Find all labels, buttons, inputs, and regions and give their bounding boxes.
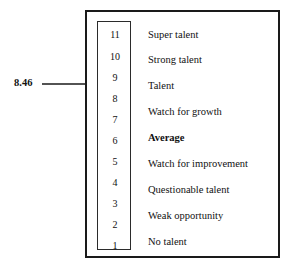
level-label-questionable-talent: Questionable talent (148, 184, 229, 195)
pointer-value-label: 8.46 (14, 77, 32, 88)
scale-number: 2 (98, 220, 132, 230)
diagram-canvas: 8.46 11 10 9 8 7 6 5 4 3 2 1 Super talen… (0, 0, 292, 271)
scale-number: 9 (98, 73, 132, 83)
level-label-average: Average (148, 132, 185, 143)
level-label-watch-for-improvement: Watch for improvement (148, 158, 248, 169)
level-label-no-talent: No talent (148, 236, 187, 247)
level-label-talent: Talent (148, 80, 174, 91)
scale-column: 11 10 9 8 7 6 5 4 3 2 1 (97, 21, 131, 250)
scale-number: 1 (98, 241, 132, 251)
scale-number: 3 (98, 199, 132, 209)
scale-number: 11 (98, 30, 132, 40)
level-label-strong-talent: Strong talent (148, 54, 202, 65)
level-label-watch-for-growth: Watch for growth (148, 106, 222, 117)
scale-number: 8 (98, 94, 132, 104)
scale-number: 6 (98, 136, 132, 146)
scale-number: 5 (98, 157, 132, 167)
level-label-super-talent: Super talent (148, 29, 198, 40)
diagram-frame: 11 10 9 8 7 6 5 4 3 2 1 Super talent Str… (85, 10, 280, 258)
scale-number: 4 (98, 178, 132, 188)
level-label-weak-opportunity: Weak opportunity (148, 210, 223, 221)
scale-number: 10 (98, 52, 132, 62)
scale-number: 7 (98, 115, 132, 125)
